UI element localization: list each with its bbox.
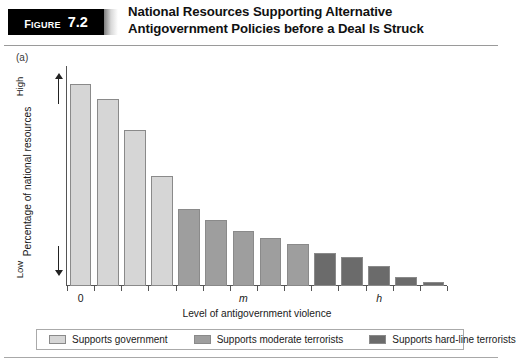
figure-badge-word: Figure <box>24 14 60 31</box>
x-axis-tick <box>148 286 149 291</box>
x-axis-tick <box>366 286 367 291</box>
bar <box>314 253 336 286</box>
x-axis-tick-label: m <box>239 292 248 304</box>
x-axis-tick <box>393 286 394 291</box>
legend-item-supports-hardline-terrorists: Supports hard-line terrorists <box>369 334 515 345</box>
header-divider <box>4 45 498 46</box>
legend-label-2: Supports hard-line terrorists <box>392 334 515 345</box>
bar <box>368 266 390 286</box>
x-axis-tick <box>230 286 231 291</box>
legend-swatch-icon-2 <box>369 335 386 344</box>
bar <box>423 282 445 286</box>
x-axis-tick <box>121 286 122 291</box>
bar <box>395 277 417 286</box>
x-axis-tick-label: 0 <box>78 292 84 304</box>
bar <box>233 231 255 286</box>
bar <box>205 220 227 286</box>
figure-badge: Figure 7.2 <box>8 9 104 35</box>
footer-divider <box>4 357 498 358</box>
x-axis-tick <box>203 286 204 291</box>
x-axis-tick <box>284 286 285 291</box>
bar <box>341 257 363 286</box>
legend-label-0: Supports government <box>72 334 168 345</box>
y-axis-high-label: High <box>14 67 25 107</box>
figure-title: National Resources Supporting Alternativ… <box>128 4 488 37</box>
plot-area <box>67 66 447 286</box>
bar <box>97 99 119 286</box>
x-axis-tick <box>420 286 421 291</box>
x-axis-label: Level of antigovernment violence <box>67 308 447 319</box>
legend-swatch-icon-1 <box>194 335 211 344</box>
chart-legend: Supports government Supports moderate te… <box>36 329 464 350</box>
y-axis-up-arrow-shaft <box>58 78 59 104</box>
x-axis-tick <box>257 286 258 291</box>
legend-item-supports-moderate-terrorists: Supports moderate terrorists <box>194 334 344 345</box>
legend-label-1: Supports moderate terrorists <box>217 334 344 345</box>
y-axis-down-arrow-head <box>55 270 63 276</box>
x-axis-tick <box>176 286 177 291</box>
figure-badge-number: 7.2 <box>68 14 88 30</box>
figure-badge-fade <box>104 9 118 35</box>
bar <box>260 238 282 286</box>
y-axis-up-arrow-head <box>55 73 63 79</box>
x-axis-tick <box>447 286 448 291</box>
x-axis-tick <box>94 286 95 291</box>
bar <box>124 130 146 286</box>
x-axis-tick <box>311 286 312 291</box>
bar <box>287 244 309 286</box>
x-axis-tick <box>67 286 68 291</box>
bar <box>70 84 92 286</box>
y-axis-low-label: Low <box>14 250 25 290</box>
bar <box>178 209 200 286</box>
figure-header: Figure 7.2 National Resources Supporting… <box>0 0 502 48</box>
y-axis-down-arrow-shaft <box>58 246 59 272</box>
x-axis-tick-label: h <box>376 292 382 304</box>
legend-swatch-icon-0 <box>49 335 66 344</box>
legend-item-supports-government: Supports government <box>49 334 168 345</box>
bar-chart: Percentage of national resources High Lo… <box>0 56 502 306</box>
x-axis-tick <box>338 286 339 291</box>
bar <box>151 176 173 286</box>
